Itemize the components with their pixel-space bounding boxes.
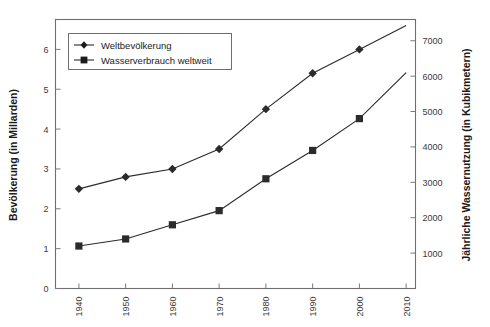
left-tick-label: 5	[43, 85, 48, 95]
x-tick-label: 1960	[168, 297, 178, 317]
y-axis-left-title: Bevölkerung (in Millarden)	[7, 89, 19, 221]
square-marker-icon	[309, 147, 316, 154]
left-tick-label: 6	[43, 45, 48, 55]
left-tick-label: 3	[43, 164, 48, 174]
x-tick-label: 2010	[402, 297, 412, 317]
left-tick-label: 2	[43, 204, 48, 214]
y-axis-right-title: Jährliche Wassernutzung (in Kubikmetern)	[460, 48, 472, 261]
square-marker-icon	[75, 242, 82, 249]
left-tick-label: 0	[43, 284, 48, 294]
square-marker-icon	[169, 221, 176, 228]
x-tick-label: 1940	[74, 297, 84, 317]
right-tick-label: 7000	[423, 36, 443, 46]
square-marker-icon	[81, 57, 88, 64]
x-tick-label: 2000	[355, 297, 365, 317]
legend-label-weltbevoelkerung: Weltbevölkerung	[101, 40, 172, 51]
x-tick-label: 1990	[308, 297, 318, 317]
right-tick-label: 2000	[423, 213, 443, 223]
left-tick-label: 4	[43, 125, 48, 135]
line-chart: 0123456 1000200030004000500060007000 194…	[0, 0, 490, 327]
chart-legend: Weltbevölkerung Wasserverbrauch weltweit	[69, 34, 232, 70]
x-tick-label: 1970	[215, 297, 225, 317]
right-tick-label: 5000	[423, 107, 443, 117]
x-tick-label: 1980	[261, 297, 271, 317]
right-tick-label: 4000	[423, 142, 443, 152]
x-tick-label: 1950	[121, 297, 131, 317]
square-marker-icon	[216, 207, 223, 214]
square-marker-icon	[122, 235, 129, 242]
square-marker-icon	[262, 175, 269, 182]
chart-container: 0123456 1000200030004000500060007000 194…	[0, 0, 490, 327]
right-tick-label: 3000	[423, 178, 443, 188]
right-tick-label: 1000	[423, 249, 443, 259]
right-tick-label: 6000	[423, 72, 443, 82]
legend-label-wasserverbrauch: Wasserverbrauch weltweit	[101, 55, 212, 66]
square-marker-icon	[356, 115, 363, 122]
left-tick-label: 1	[43, 244, 48, 254]
